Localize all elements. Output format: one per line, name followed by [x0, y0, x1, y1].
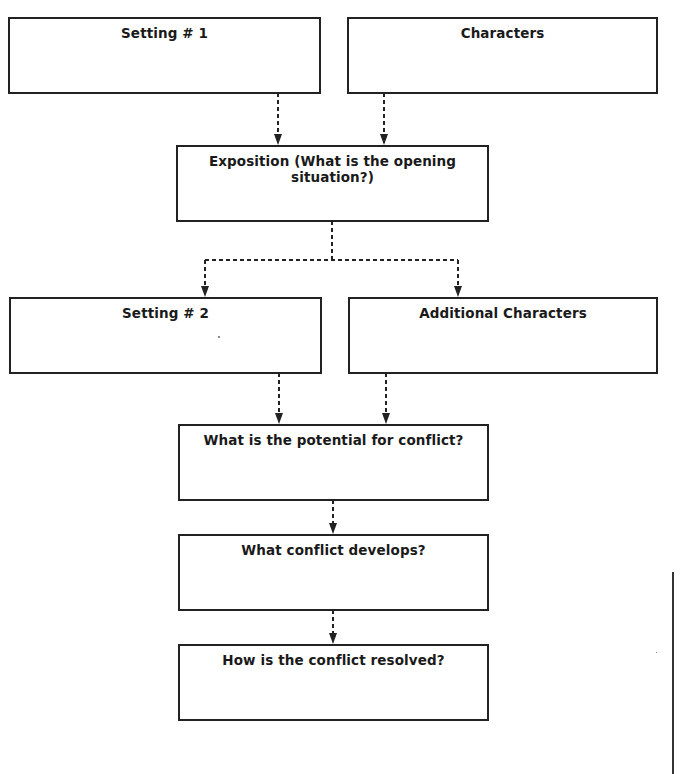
box-label: What is the potential for conflict?	[180, 432, 487, 448]
box-label: Exposition (What is the opening situatio…	[178, 153, 487, 185]
box-setting-1: Setting # 1	[8, 17, 321, 94]
scan-speck	[218, 336, 220, 338]
scan-speck	[656, 652, 657, 653]
arrowhead-icon	[454, 286, 462, 297]
box-setting-2: Setting # 2	[9, 297, 322, 374]
box-additional-characters: Additional Characters	[348, 297, 658, 374]
arrowhead-icon	[329, 523, 337, 534]
box-exposition: Exposition (What is the opening situatio…	[176, 145, 489, 222]
box-label: How is the conflict resolved?	[180, 652, 487, 668]
box-label: Characters	[349, 25, 656, 41]
box-potential-conflict: What is the potential for conflict?	[178, 424, 489, 501]
page-edge-line	[672, 572, 674, 774]
arrowhead-icon	[201, 286, 209, 297]
box-conflict-resolved: How is the conflict resolved?	[178, 644, 489, 721]
box-characters: Characters	[347, 17, 658, 94]
arrowhead-icon	[329, 633, 337, 644]
arrowhead-icon	[275, 413, 283, 424]
box-conflict-develops: What conflict develops?	[178, 534, 489, 611]
arrowhead-icon	[274, 134, 282, 145]
arrowhead-icon	[380, 134, 388, 145]
box-label: Setting # 1	[10, 25, 319, 41]
box-label: Setting # 2	[11, 305, 320, 321]
box-label: What conflict develops?	[180, 542, 487, 558]
box-label: Additional Characters	[350, 305, 656, 321]
arrowhead-icon	[382, 413, 390, 424]
